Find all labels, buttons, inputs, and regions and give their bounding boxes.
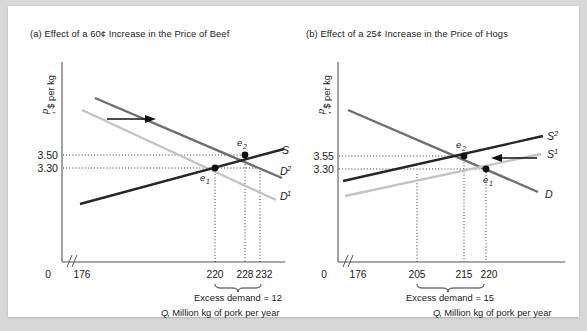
panel-a-excess-demand-brace [215, 284, 261, 292]
panel-b-curve-sup-s2: 2 [553, 129, 559, 138]
panel-b-equilibrium-label-e1: e [483, 174, 488, 185]
figure-root: (a) Effect of a 60¢ Increase in the Pric… [0, 0, 587, 331]
panel-a-axis-break-icon [67, 255, 77, 267]
panel-b-price-tick-330: 3.30 [313, 163, 334, 175]
panel-a-tick-176: 176 [74, 269, 91, 280]
panel-a-equilibrium-label-e1: e [200, 172, 205, 183]
panel-b-equilibrium-dot-e1 [483, 166, 490, 173]
panel-b-axis-break-icon [343, 255, 353, 267]
panel-b-excess-demand-brace [417, 284, 484, 292]
panel-b-y-axis-label-units: , $ per kg [321, 75, 332, 114]
panel-b-equilibrium-label-e2: e [456, 139, 461, 150]
panel-a-price-tick-350: 3.50 [37, 149, 58, 161]
panel-b-tick-215: 215 [456, 269, 473, 280]
panel-b-equilibrium-dot-e2 [461, 153, 468, 160]
panel-b: (b) Effect of a 25¢ Increase in the Pric… [293, 6, 578, 317]
panel-b-tick-205: 205 [409, 269, 426, 280]
panel-a-x-axis-label-units: , Million kg of pork per year [167, 307, 280, 318]
panel-b-plot: 3.55 3.30 p , $ per kg 0 176 205 215 220… [293, 6, 578, 317]
panel-b-equilibrium-sub-e1: 1 [489, 180, 493, 187]
panel-b-origin-label: 0 [321, 269, 327, 280]
panel-b-curve-label-d: D [545, 188, 553, 200]
panel-a-curve-sup-d2: 2 [286, 164, 292, 173]
panel-b-curve-sup-s1: 1 [554, 147, 558, 156]
panel-b-curve-d [348, 110, 538, 192]
panel-b-excess-demand-label: Excess demand = 15 [406, 292, 494, 303]
panel-b-x-axis-label-units: , Million kg of pork per year [439, 307, 552, 318]
panel-a-equilibrium-sub-e2: 2 [242, 143, 247, 150]
panel-a-tick-220: 220 [207, 269, 224, 280]
panel-a-excess-demand-label: Excess demand = 12 [194, 292, 282, 303]
panel-b-price-tick-355: 3.55 [313, 150, 334, 162]
panel-a-curve-d2 [95, 98, 282, 178]
panel-a-curve-label-s: S [282, 144, 289, 156]
panel-a-plot: 3.50 3.30 p , $ per kg 0 176 220 228 232… [8, 6, 293, 317]
panel-a: (a) Effect of a 60¢ Increase in the Pric… [8, 6, 293, 317]
panel-a-origin-label: 0 [45, 269, 51, 280]
panel-a-curve-sup-d1: 1 [287, 189, 291, 198]
panel-a-equilibrium-dot-e2 [242, 152, 249, 159]
panel-b-tick-220: 220 [481, 269, 498, 280]
panel-a-equilibrium-sub-e1: 1 [206, 178, 210, 185]
panel-a-tick-228: 228 [237, 269, 254, 280]
panel-b-equilibrium-sub-e2: 2 [461, 145, 466, 152]
figure-card: (a) Effect of a 60¢ Increase in the Pric… [8, 6, 579, 317]
panel-b-tick-176: 176 [350, 269, 367, 280]
panel-a-price-tick-330: 3.30 [37, 162, 58, 174]
panel-a-tick-232: 232 [256, 269, 273, 280]
panel-a-equilibrium-dot-e1 [212, 165, 219, 172]
panel-b-shift-arrow-head-icon [491, 154, 502, 162]
panel-a-equilibrium-label-e2: e [237, 137, 242, 148]
panel-a-y-axis-label-units: , $ per kg [45, 75, 56, 114]
